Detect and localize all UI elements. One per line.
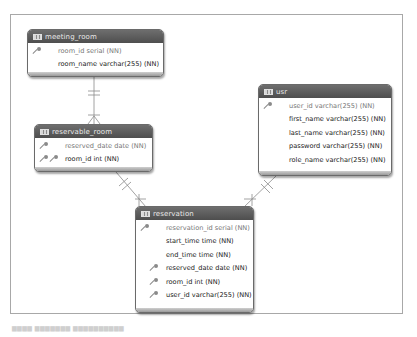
- table-icon: [33, 34, 42, 40]
- field-label: end_time time (NN): [166, 251, 231, 259]
- field-row[interactable]: first_name varchar(255) (NN): [259, 113, 391, 127]
- foreign-key-icon: [150, 278, 158, 286]
- field-label: reserved_date date (NN): [65, 142, 146, 150]
- field-label: room_id int (NN): [65, 155, 119, 163]
- field-row[interactable]: password varchar(255) (NN): [259, 140, 391, 154]
- field-row[interactable]: user_id varchar(255) (NN): [136, 289, 253, 303]
- field-label: first_name varchar(255) (NN): [289, 115, 386, 123]
- field-row[interactable]: reservation_id serial (NN): [136, 221, 253, 235]
- field-label: password varchar(255) (NN): [289, 142, 382, 150]
- field-row[interactable]: room_id int (NN): [136, 275, 253, 289]
- entity-name: meeting_room: [45, 33, 97, 41]
- table-icon: [40, 129, 49, 135]
- entity-footer: [28, 72, 163, 76]
- entity-header[interactable]: reservable_room: [35, 125, 152, 138]
- entity-meeting-room[interactable]: meeting_room room_id serial (NN) room_na…: [27, 29, 164, 77]
- entity-name: reservable_room: [52, 128, 112, 136]
- field-label: start_time time (NN): [166, 237, 234, 245]
- field-label: reserved_date date (NN): [166, 264, 247, 272]
- field-label: reservation_id serial (NN): [166, 224, 250, 232]
- entity-header[interactable]: usr: [259, 85, 391, 98]
- field-row[interactable]: role_name varchar(255) (NN): [259, 153, 391, 167]
- foreign-key-icon: [150, 291, 158, 299]
- field-row[interactable]: room_name varchar(255) (NN): [28, 58, 163, 72]
- primary-key-icon: [264, 102, 272, 110]
- field-row[interactable]: last_name varchar(255) (NN): [259, 126, 391, 140]
- foreign-key-icon: [50, 155, 58, 163]
- primary-key-icon: [40, 155, 48, 163]
- primary-key-icon: [33, 47, 41, 55]
- field-row[interactable]: reserved_date date (NN): [136, 262, 253, 276]
- table-icon: [264, 89, 273, 95]
- primary-key-icon: [141, 224, 149, 232]
- field-label: room_name varchar(255) (NN): [58, 60, 159, 68]
- field-row[interactable]: room_id int (NN): [35, 153, 152, 167]
- entity-footer: [136, 308, 253, 312]
- entity-header[interactable]: meeting_room: [28, 30, 163, 43]
- primary-key-icon: [40, 142, 48, 150]
- field-label: user_id varchar(255) (NN): [166, 291, 252, 299]
- entity-header[interactable]: reservation: [136, 207, 253, 220]
- field-label: room_id int (NN): [166, 278, 220, 286]
- foreign-key-icon: [150, 264, 158, 272]
- entity-name: usr: [276, 88, 287, 96]
- entity-reservable-room[interactable]: reservable_room reserved_date date (NN) …: [34, 124, 153, 172]
- field-label: role_name varchar(255) (NN): [289, 156, 385, 164]
- field-row[interactable]: user_id varchar(255) (NN): [259, 99, 391, 113]
- field-row[interactable]: start_time time (NN): [136, 235, 253, 249]
- field-label: last_name varchar(255) (NN): [289, 129, 385, 137]
- field-label: user_id varchar(255) (NN): [289, 102, 375, 110]
- entity-footer: [35, 167, 152, 171]
- field-label: room_id serial (NN): [58, 47, 121, 55]
- figure-caption: ▆▆▆▆ ▆▆▆▆▆▆▆ ▆▆▆▆▆▆▆▆▆▆: [12, 324, 124, 331]
- field-row[interactable]: reserved_date date (NN): [35, 139, 152, 153]
- entity-reservation[interactable]: reservation reservation_id serial (NN) s…: [135, 206, 254, 313]
- table-icon: [141, 211, 150, 217]
- field-row[interactable]: room_id serial (NN): [28, 44, 163, 58]
- entity-footer: [259, 171, 391, 175]
- entity-usr[interactable]: usr user_id varchar(255) (NN) first_name…: [258, 84, 392, 176]
- entity-name: reservation: [153, 210, 194, 218]
- field-row[interactable]: end_time time (NN): [136, 248, 253, 262]
